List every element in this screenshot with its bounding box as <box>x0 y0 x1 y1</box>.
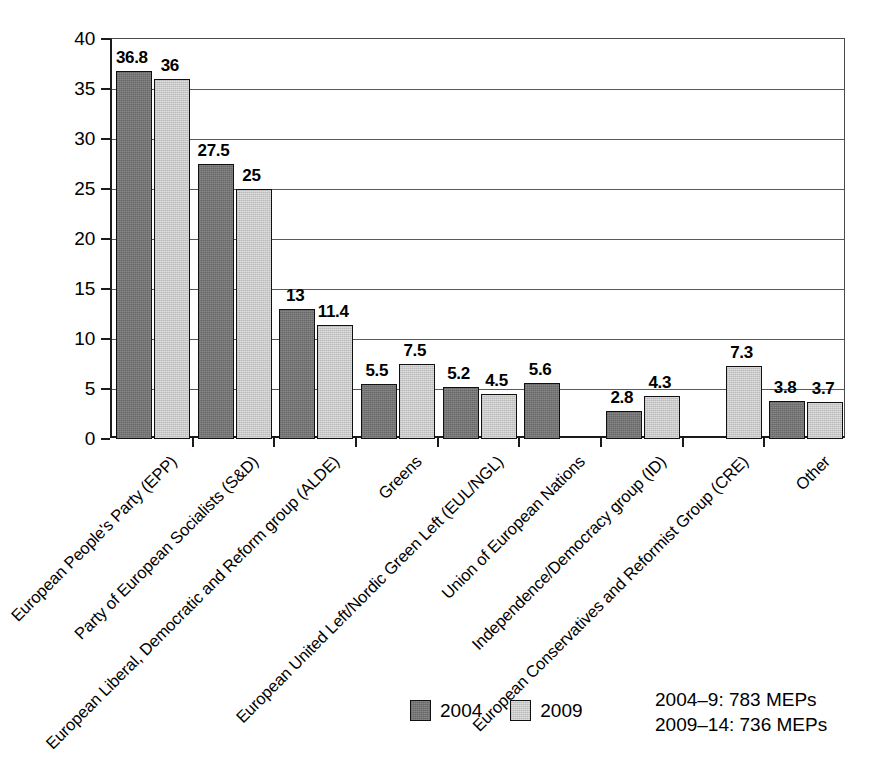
bar-2004-1[interactable] <box>198 164 234 439</box>
gridline <box>112 89 844 90</box>
bar-2009-7[interactable] <box>726 366 762 439</box>
gridline <box>112 139 844 140</box>
footnote: 2004–9: 783 MEPs 2009–14: 736 MEPs <box>655 687 827 737</box>
footnote-line-2: 2009–14: 736 MEPs <box>655 712 827 737</box>
y-tick-label: 35 <box>53 79 95 98</box>
x-axis-tick <box>192 438 194 447</box>
bar-2009-0[interactable] <box>154 79 190 439</box>
y-tick-label: 5 <box>53 379 95 398</box>
y-tick-label: 15 <box>53 279 95 298</box>
legend-item-2009[interactable]: 2009 <box>510 700 582 721</box>
legend-swatch-2004 <box>410 700 431 721</box>
bar-2004-2[interactable] <box>279 309 315 439</box>
bar-2009-4[interactable] <box>481 394 517 439</box>
legend-label-2009: 2009 <box>540 701 582 720</box>
category-label: Union of European Nations <box>438 452 588 602</box>
y-axis-tick <box>101 188 110 190</box>
x-axis-tick <box>518 438 520 447</box>
category-label: European People's Party (EPP) <box>7 452 180 625</box>
y-axis-tick <box>101 438 110 440</box>
y-axis-tick <box>101 288 110 290</box>
x-axis-tick <box>682 438 684 447</box>
bar-2004-6[interactable] <box>606 411 642 439</box>
bar-2004-4[interactable] <box>443 387 479 439</box>
y-tick-label: 10 <box>53 329 95 348</box>
bar-value-label: 7.5 <box>383 342 447 359</box>
x-axis-tick <box>273 438 275 447</box>
bar-2009-8[interactable] <box>807 402 843 439</box>
bar-value-label: 4.3 <box>628 374 692 391</box>
x-axis-tick <box>355 438 357 447</box>
legend-swatch-2009 <box>510 700 531 721</box>
category-label: Greens <box>374 452 424 502</box>
bar-2004-3[interactable] <box>361 384 397 439</box>
x-axis-tick <box>600 438 602 447</box>
bar-value-label: 2.8 <box>590 389 654 406</box>
y-tick-label: 40 <box>53 29 95 48</box>
y-tick-label: 20 <box>53 229 95 248</box>
bar-value-label: 5.6 <box>508 361 572 378</box>
footnote-line-1: 2004–9: 783 MEPs <box>655 687 827 712</box>
legend: 2004 2009 <box>410 700 583 721</box>
legend-item-2004[interactable]: 2004 <box>410 700 482 721</box>
y-tick-label: 0 <box>53 429 95 448</box>
y-axis-tick <box>101 38 110 40</box>
x-axis-tick <box>437 438 439 447</box>
bar-2009-1[interactable] <box>236 189 272 439</box>
y-axis-tick <box>101 88 110 90</box>
y-tick-label: 30 <box>53 129 95 148</box>
y-tick-label: 25 <box>53 179 95 198</box>
bar-value-label: 36 <box>138 57 202 74</box>
x-axis-tick <box>763 438 765 447</box>
legend-label-2004: 2004 <box>440 701 482 720</box>
y-axis-tick <box>101 238 110 240</box>
y-axis-tick <box>101 388 110 390</box>
bar-2004-0[interactable] <box>116 71 152 439</box>
bar-value-label: 3.7 <box>791 380 855 397</box>
bar-value-label: 11.4 <box>301 303 365 320</box>
bar-2004-8[interactable] <box>769 401 805 439</box>
bar-value-label: 7.3 <box>710 344 774 361</box>
y-axis-tick <box>101 138 110 140</box>
category-label: European Liberal, Democratic and Reform … <box>43 452 343 752</box>
bar-value-label: 5.5 <box>345 362 409 379</box>
bar-value-label: 27.5 <box>182 142 246 159</box>
category-label: Other <box>791 452 832 493</box>
bar-value-label: 25 <box>220 167 284 184</box>
bar-chart: 40 35 30 25 20 15 10 5 0 36.83627.525131… <box>0 0 877 762</box>
bar-2009-2[interactable] <box>317 325 353 439</box>
y-axis-tick <box>101 338 110 340</box>
bar-2004-5[interactable] <box>524 383 560 439</box>
category-label: European United Left/Nordic Green Left (… <box>232 452 506 726</box>
